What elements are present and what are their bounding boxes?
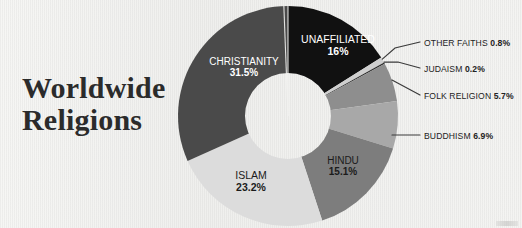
- callout-judaism-name: JUDAISM: [424, 64, 462, 74]
- callout-buddhism-percent: 6.9%: [473, 131, 493, 141]
- callout-folk-religion-percent: 5.7%: [494, 91, 514, 101]
- donut-chart: CHRISTIANITY 31.5% UNAFFILIATED 16% HIND…: [0, 0, 522, 228]
- donut-chart-svg: [0, 0, 522, 228]
- slice-christianity[interactable]: [178, 6, 288, 161]
- corner-watermark: [496, 221, 518, 226]
- callout-buddhism-name: BUDDHISM: [424, 131, 471, 141]
- callout-buddhism: BUDDHISM 6.9%: [424, 131, 493, 141]
- callout-judaism: JUDAISM 0.2%: [424, 64, 485, 74]
- leader-line-other-faiths: [382, 42, 420, 59]
- callout-judaism-percent: 0.2%: [465, 64, 485, 74]
- callout-other-faiths-percent: 0.8%: [490, 38, 510, 48]
- callout-other-faiths: OTHER FAITHS 0.8%: [424, 38, 510, 48]
- callout-folk-religion: FOLK RELIGION 5.7%: [424, 91, 514, 101]
- leader-line-folk-religion: [392, 80, 420, 95]
- callout-other-faiths-name: OTHER FAITHS: [424, 38, 488, 48]
- callout-folk-religion-name: FOLK RELIGION: [424, 91, 491, 101]
- leader-line-judaism: [384, 62, 420, 68]
